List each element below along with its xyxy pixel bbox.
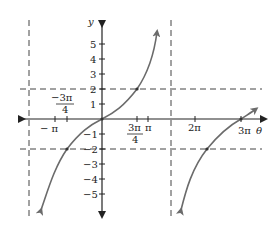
y-label-neg1: −1 — [83, 129, 98, 140]
x-label-3pi: 3π — [238, 125, 251, 136]
tangent-graph: y θ 5 4 3 2 1 −1 −2 −3 −4 −5 − π −3π 4 3… — [0, 0, 274, 232]
x-label-pi: π — [145, 122, 152, 133]
y-label-1: 1 — [90, 99, 96, 110]
svg-text:−3π: −3π — [51, 92, 73, 103]
y-label-2: 2 — [90, 84, 96, 95]
y-label-neg3: −3 — [83, 159, 98, 170]
x-label-neg-3pi-over-4: −3π 4 — [51, 92, 74, 115]
point-origin — [100, 117, 103, 120]
y-axis-label: y — [87, 16, 94, 27]
x-label-3pi-over-4: 3π 4 — [127, 122, 143, 145]
x-label-neg-pi: − π — [40, 123, 59, 134]
y-label-4: 4 — [90, 54, 96, 65]
point-3pi4 — [135, 87, 138, 90]
x-axis-label: θ — [256, 125, 262, 136]
y-label-3: 3 — [90, 69, 96, 80]
point-3pi — [239, 117, 242, 120]
svg-text:3π: 3π — [128, 122, 141, 133]
y-label-neg2: −2 — [83, 144, 98, 155]
svg-text:4: 4 — [62, 104, 68, 115]
svg-text:4: 4 — [132, 134, 138, 145]
y-label-5: 5 — [90, 39, 96, 50]
point-9pi4 — [205, 147, 208, 150]
y-label-neg4: −4 — [83, 174, 98, 185]
point-neg3pi4 — [65, 147, 68, 150]
y-label-neg5: −5 — [83, 189, 98, 200]
x-label-2pi: 2π — [188, 122, 201, 133]
